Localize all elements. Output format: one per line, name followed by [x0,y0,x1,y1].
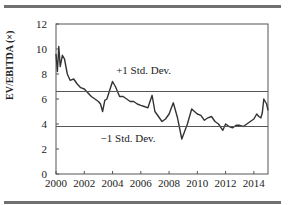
x-tick-label: 2008 [158,177,181,189]
y-tick-label: 8 [42,68,48,80]
x-tick-label: 2006 [130,177,153,189]
x-tick-label: 2004 [102,177,125,189]
y-tick-label: 6 [42,93,48,105]
x-tick-label: 2010 [186,177,209,189]
ev-ebitda-line [56,47,268,140]
x-tick-label: 2000 [45,177,68,189]
x-tick-label: 2002 [73,177,95,189]
y-tick-label: 12 [36,18,47,30]
y-tick-label: 4 [42,118,48,130]
axes: 0246810122000200220042006200820102012201… [36,18,268,189]
plot-frame [56,24,268,174]
y-tick-label: 2 [42,143,48,155]
plus-std-label: +1 Std. Dev. [116,64,171,76]
minus-std-label: −1 Std. Dev. [101,132,156,144]
x-tick-label: 2014 [243,177,266,189]
x-tick-label: 2012 [215,177,237,189]
series [56,47,268,140]
line-chart: 0246810122000200220042006200820102012201… [0,0,288,205]
y-tick-label: 10 [36,43,48,55]
